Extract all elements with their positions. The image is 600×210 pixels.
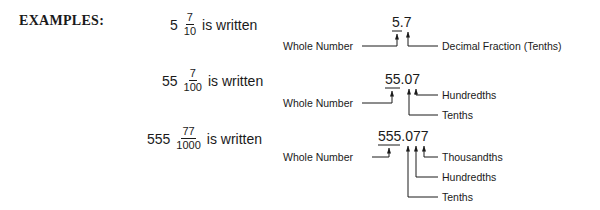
arrow-icon — [416, 89, 438, 95]
arrow-icon — [362, 91, 392, 103]
pointer-lines — [0, 0, 600, 210]
arrow-icon — [416, 146, 438, 177]
arrow-icon — [372, 148, 389, 157]
arrow-icon — [424, 146, 438, 157]
arrow-icon — [362, 34, 397, 46]
arrow-icon — [408, 32, 438, 46]
arrow-icon — [408, 146, 438, 197]
arrow-icon — [409, 89, 438, 115]
